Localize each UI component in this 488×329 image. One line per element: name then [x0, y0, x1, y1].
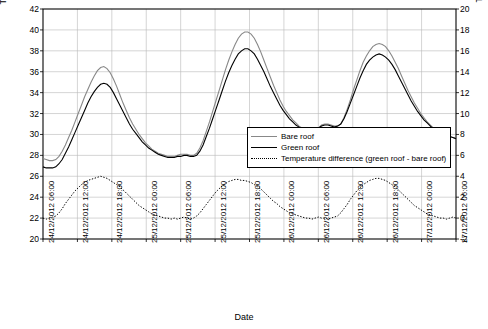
legend-label: Bare roof — [281, 131, 314, 142]
legend-item: Green roof — [251, 142, 446, 153]
legend-label: Green roof — [281, 142, 319, 153]
legend-item: Temperature difference (green roof - bar… — [251, 153, 446, 164]
legend-key-icon — [251, 154, 277, 163]
chart-legend: Bare roofGreen roofTemperature differenc… — [247, 127, 451, 168]
legend-item: Bare roof — [251, 131, 446, 142]
legend-key-icon — [251, 143, 277, 152]
chart-figure: Temperature (°C) Temperature difference … — [0, 0, 488, 329]
legend-key-icon — [251, 132, 277, 141]
legend-label: Temperature difference (green roof - bar… — [281, 153, 446, 164]
